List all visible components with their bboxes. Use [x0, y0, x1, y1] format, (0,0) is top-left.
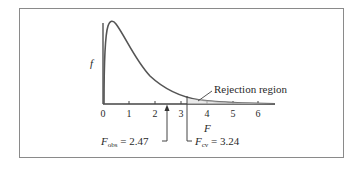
f-obs-symbol: F — [101, 135, 108, 147]
x-axis-label: F — [204, 123, 211, 134]
f-distribution-plot — [0, 0, 358, 169]
f-obs-arrow-icon — [165, 105, 170, 112]
rejection-region-label: Rejection region — [214, 84, 287, 95]
f-cv-value: = 3.24 — [208, 135, 239, 147]
f-obs-value: = 2.47 — [117, 135, 148, 147]
y-axis-label: f — [90, 58, 93, 69]
x-tick-label: 1 — [127, 109, 132, 119]
f-obs-subscript: obs — [108, 141, 118, 149]
x-tick-label: 6 — [256, 109, 261, 119]
f-cv-label: Fcv = 3.24 — [195, 136, 239, 151]
x-tick-label: 3 — [179, 109, 184, 119]
f-obs-marker-line — [162, 110, 167, 141]
x-tick-label: 2 — [153, 109, 158, 119]
x-tick-label: 0 — [101, 109, 106, 119]
rejection-region-pointer — [198, 91, 212, 101]
x-tick-label: 5 — [231, 109, 236, 119]
f-obs-label: Fobs = 2.47 — [101, 136, 148, 151]
x-tick-label: 4 — [205, 109, 210, 119]
f-cv-symbol: F — [195, 135, 202, 147]
